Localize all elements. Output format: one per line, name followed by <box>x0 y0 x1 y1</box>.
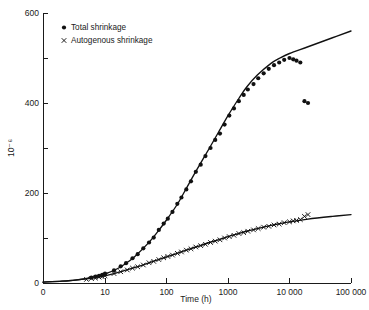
y-tick-label-600: 600 <box>25 8 39 18</box>
legend-marker-cross-icon <box>62 38 67 43</box>
data-point <box>218 132 222 136</box>
chart-canvas: 0200400600 010100100010 000100 000 Time … <box>0 0 369 310</box>
data-point <box>227 114 231 118</box>
data-point <box>147 240 151 244</box>
data-point <box>157 228 161 232</box>
x-tick-label-0: 0 <box>41 287 46 297</box>
axes <box>43 13 351 283</box>
series-0 <box>43 31 351 282</box>
data-point <box>179 195 183 199</box>
x-tick-label-100: 100 <box>159 287 173 297</box>
x-axis-title: Time (h) <box>180 294 211 304</box>
data-point <box>184 187 188 191</box>
data-point <box>119 264 123 268</box>
data-point <box>262 71 266 75</box>
data-point <box>124 261 128 265</box>
data-point <box>194 170 198 174</box>
x-tick-label-10000: 10 000 <box>277 287 303 297</box>
y-axis-ticks <box>43 13 48 283</box>
data-series <box>43 31 351 282</box>
data-point <box>170 210 174 214</box>
data-point <box>282 58 286 62</box>
data-point <box>208 146 212 150</box>
legend-entry-0: Total shrinkage <box>62 23 127 32</box>
data-point <box>242 93 246 97</box>
data-point <box>175 202 179 206</box>
x-tick-label-10: 10 <box>100 287 110 297</box>
data-point <box>272 63 276 67</box>
data-point <box>213 138 217 142</box>
data-point <box>256 76 260 80</box>
data-point <box>203 154 207 158</box>
legend-entry-1: Autogenous shrinkage <box>62 36 153 45</box>
y-tick-label-0: 0 <box>34 278 39 288</box>
data-point <box>267 67 271 71</box>
data-point <box>152 235 156 239</box>
y-tick-label-400: 400 <box>25 98 39 108</box>
x-tick-label-100000: 100 000 <box>336 287 367 297</box>
data-point <box>166 217 170 221</box>
data-point <box>287 56 291 60</box>
data-point <box>251 82 255 86</box>
data-point <box>162 222 166 226</box>
data-point <box>141 246 145 250</box>
y-axis-title: 10⁻⁶ <box>6 139 16 157</box>
data-point <box>189 179 193 183</box>
data-point <box>306 101 310 105</box>
data-point <box>294 59 298 63</box>
shrinkage-chart: 0200400600 010100100010 000100 000 Time … <box>0 0 369 310</box>
data-point <box>237 99 241 103</box>
y-tick-label-200: 200 <box>25 188 39 198</box>
data-point <box>199 163 203 167</box>
y-axis-tick-labels: 0200400600 <box>25 8 39 288</box>
chart-legend: Total shrinkageAutogenous shrinkage <box>62 23 153 45</box>
data-point <box>302 99 306 103</box>
series-1 <box>43 212 351 282</box>
curve-0 <box>43 31 351 282</box>
legend-label: Total shrinkage <box>71 23 127 32</box>
data-point <box>222 123 226 127</box>
data-point <box>130 256 134 260</box>
data-point <box>298 60 302 64</box>
data-point <box>277 60 281 64</box>
x-tick-label-1000: 1000 <box>219 287 238 297</box>
data-point <box>232 106 236 110</box>
legend-label: Autogenous shrinkage <box>71 36 153 45</box>
legend-marker-filled-circle-icon <box>62 25 66 29</box>
data-point <box>246 87 250 91</box>
data-point <box>136 252 140 256</box>
